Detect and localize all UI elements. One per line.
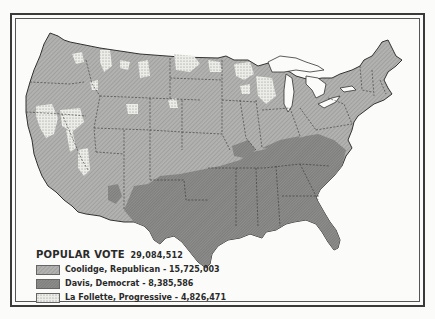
legend-entry-republican: Coolidge, Republican - 15,725,003	[36, 263, 226, 276]
legend-label-democrat: Davis, Democrat - 8,385,586	[65, 279, 193, 288]
legend-total-votes: 29,084,512	[130, 251, 183, 260]
swatch-progressive-icon	[36, 293, 60, 303]
legend-entry-progressive: La Follette, Progressive - 4,826,471	[36, 291, 226, 304]
legend-entry-democrat: Davis, Democrat - 8,385,586	[36, 277, 226, 290]
swatch-republican-icon	[36, 265, 60, 275]
swatch-democrat-icon	[36, 279, 60, 289]
legend-title: POPULAR VOTE 29,084,512	[36, 249, 226, 260]
legend-label-progressive: La Follette, Progressive - 4,826,471	[65, 293, 226, 302]
legend-title-text: POPULAR VOTE	[36, 249, 125, 260]
lake-superior	[268, 56, 324, 72]
legend-label-republican: Coolidge, Republican - 15,725,003	[65, 265, 220, 274]
legend: POPULAR VOTE 29,084,512 Coolidge, Republ…	[36, 249, 226, 305]
